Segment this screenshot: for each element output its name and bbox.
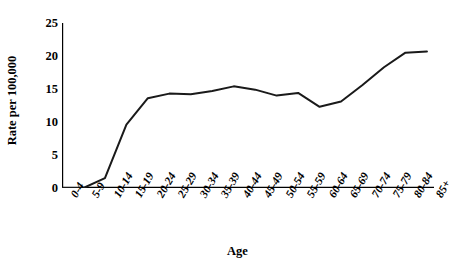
x-tick-label-text: 65-69 bbox=[348, 194, 358, 200]
x-tick-label-text: 0-4 bbox=[69, 194, 79, 200]
y-tick-label: 25 bbox=[24, 17, 58, 30]
y-axis-tick-labels: 0510152025 bbox=[24, 0, 58, 200]
x-tick-label-text: 30-34 bbox=[198, 194, 208, 200]
x-tick-label-text: 25-29 bbox=[176, 194, 186, 200]
series-line-rate bbox=[62, 51, 427, 188]
y-axis-title-text: Rate per 100,000 bbox=[6, 55, 21, 145]
x-tick-label-text: 80-84 bbox=[412, 194, 422, 200]
y-tick-label: 5 bbox=[24, 149, 58, 162]
y-axis-title: Rate per 100,000 bbox=[0, 0, 26, 200]
x-axis-tick-labels: 0-45-910-1415-1920-2425-2930-3435-3940-4… bbox=[0, 188, 461, 246]
x-tick-label-text: 60-64 bbox=[327, 194, 337, 200]
y-tick-label: 10 bbox=[24, 116, 58, 129]
x-tick-label-text: 70-74 bbox=[370, 194, 380, 200]
data-series-line bbox=[62, 23, 434, 188]
x-tick-label-text: 50-54 bbox=[284, 194, 294, 200]
x-tick-label-text: 35-39 bbox=[219, 194, 229, 200]
x-tick-label-text: 10-14 bbox=[112, 194, 122, 200]
x-axis-title-text: Age bbox=[213, 244, 248, 259]
x-tick-label-text: 85+ bbox=[434, 194, 444, 200]
line-chart-figure: Rate per 100,000 0510152025 0-45-910-141… bbox=[0, 0, 461, 269]
y-tick-label: 20 bbox=[24, 50, 58, 63]
x-tick-label-text: 55-59 bbox=[305, 194, 315, 200]
plot-area bbox=[62, 23, 434, 188]
x-tick-label-text: 75-79 bbox=[391, 194, 401, 200]
x-tick-label-text: 15-19 bbox=[133, 194, 143, 200]
x-tick-label-text: 45-49 bbox=[262, 194, 272, 200]
x-tick-label-text: 5-9 bbox=[90, 194, 100, 200]
x-tick-label-text: 20-24 bbox=[155, 194, 165, 200]
y-tick-label: 15 bbox=[24, 83, 58, 96]
x-tick-label-text: 40-44 bbox=[241, 194, 251, 200]
x-axis-title: Age bbox=[0, 244, 461, 259]
